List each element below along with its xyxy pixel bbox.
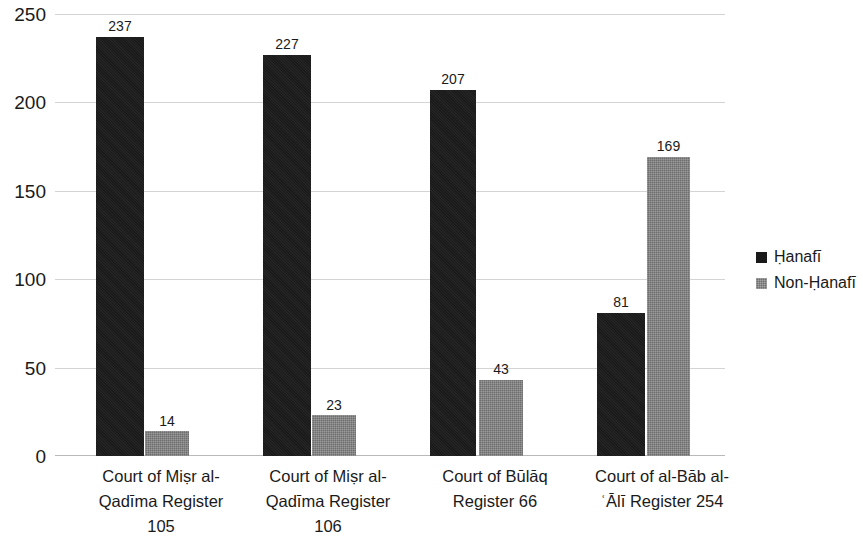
legend-swatch-nonhanafi-icon	[756, 278, 767, 289]
bar-group-3: 207 43	[427, 14, 563, 456]
legend-item-nonhanafi[interactable]: Non-Ḥanafī	[756, 270, 863, 296]
x-axis-label-4-line-2: ʿĀlī Register 254	[574, 489, 750, 514]
x-axis-label-2-line-2: Qadīma Register	[240, 489, 416, 514]
x-axis-label-2-line-1: Court of Miṣr al-	[240, 464, 416, 489]
bar-label-hanafi-4: 81	[613, 295, 629, 309]
x-axis-label-2-line-3: 106	[240, 514, 416, 539]
bar-label-hanafi-3: 207	[441, 72, 464, 86]
x-axis-label-4-line-1: Court of al-Bāb al-	[574, 464, 750, 489]
y-axis-tick-100: 100	[14, 270, 46, 289]
bar-label-nonhanafi-2: 23	[326, 398, 342, 412]
x-axis-label-4: Court of al-Bāb al- ʿĀlī Register 254	[574, 464, 750, 514]
bar-label-hanafi-1: 237	[108, 19, 131, 33]
x-axis-label-1-line-3: 105	[73, 514, 249, 539]
y-axis-tick-150: 150	[14, 181, 46, 200]
bar-hanafi-4[interactable]	[597, 313, 645, 456]
bar-chart: 250 200 150 100 50 0 237 14 227 23	[0, 0, 863, 546]
bar-group-2: 227 23	[260, 14, 396, 456]
bar-hanafi-2[interactable]	[263, 55, 311, 457]
bar-hanafi-3[interactable]	[430, 90, 476, 456]
legend-label-hanafi: Ḥanafī	[774, 249, 821, 265]
x-axis-label-2: Court of Miṣr al- Qadīma Register 106	[240, 464, 416, 539]
x-axis-label-3: Court of Būlāq Register 66	[407, 464, 583, 514]
x-axis-label-1-line-1: Court of Miṣr al-	[73, 464, 249, 489]
x-axis-labels: Court of Miṣr al- Qadīma Register 105 Co…	[55, 464, 725, 546]
y-axis: 250 200 150 100 50 0	[0, 0, 52, 546]
y-axis-tick-200: 200	[14, 93, 46, 112]
x-axis-label-3-line-1: Court of Būlāq	[407, 464, 583, 489]
x-axis-label-1: Court of Miṣr al- Qadīma Register 105	[73, 464, 249, 539]
y-axis-tick-250: 250	[14, 5, 46, 24]
x-axis-label-3-line-2: Register 66	[407, 489, 583, 514]
legend-swatch-hanafi-icon	[756, 252, 767, 263]
bar-nonhanafi-4[interactable]	[647, 157, 690, 456]
bar-label-hanafi-2: 227	[275, 37, 298, 51]
bar-hanafi-1[interactable]	[96, 37, 144, 456]
legend-label-nonhanafi: Non-Ḥanafī	[774, 275, 856, 291]
bar-nonhanafi-2[interactable]	[312, 415, 356, 456]
bar-label-nonhanafi-3: 43	[493, 362, 509, 376]
legend-item-hanafi[interactable]: Ḥanafī	[756, 244, 863, 270]
plot-area: 237 14 227 23 207 43 81 169	[55, 14, 725, 456]
chart-legend: Ḥanafī Non-Ḥanafī	[756, 244, 863, 296]
x-axis-label-1-line-2: Qadīma Register	[73, 489, 249, 514]
bar-nonhanafi-3[interactable]	[479, 380, 523, 456]
bar-label-nonhanafi-4: 169	[657, 139, 680, 153]
bar-group-1: 237 14	[93, 14, 229, 456]
y-axis-tick-0: 0	[35, 447, 46, 466]
bar-label-nonhanafi-1: 14	[159, 414, 175, 428]
y-axis-tick-50: 50	[25, 358, 46, 377]
bar-group-4: 81 169	[594, 14, 730, 456]
bar-nonhanafi-1[interactable]	[145, 431, 189, 456]
